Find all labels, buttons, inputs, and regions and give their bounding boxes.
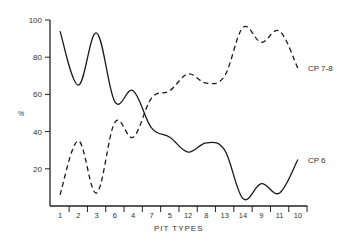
y-axis-label: %: [18, 110, 24, 117]
series-line-cp-6: [60, 31, 298, 200]
series-group: [60, 26, 298, 199]
x-tick-label: 6: [113, 211, 117, 220]
x-tick-label: 2: [76, 211, 80, 220]
x-tick-label: 11: [276, 211, 284, 220]
x-tick-label: 1: [58, 211, 62, 220]
x-tick-label: 5: [168, 211, 172, 220]
x-tick-label: 12: [184, 211, 192, 220]
x-tick-label: 8: [204, 211, 208, 220]
series-label: CP 6: [308, 156, 326, 165]
y-tick-label: 60: [33, 90, 42, 99]
series-line-cp-7-8: [60, 26, 298, 195]
x-tick-label: 3: [95, 211, 99, 220]
x-tick-label: 13: [221, 211, 229, 220]
y-tick-label: 20: [33, 165, 42, 174]
x-tick-label: 10: [294, 211, 302, 220]
y-tick-label: 100: [29, 16, 43, 25]
axes: [45, 20, 307, 212]
y-tick-label: 40: [33, 128, 42, 137]
x-tick-label: 7: [149, 211, 153, 220]
x-tick-label: 4: [131, 211, 135, 220]
series-label: CP 7-8: [308, 64, 333, 73]
line-chart: 204060801001236475128131491110PIT TYPES%…: [0, 0, 344, 243]
x-axis-label: PIT TYPES: [154, 224, 204, 233]
x-tick-label: 9: [259, 211, 263, 220]
x-tick-label: 14: [239, 211, 247, 220]
y-tick-label: 80: [33, 53, 42, 62]
